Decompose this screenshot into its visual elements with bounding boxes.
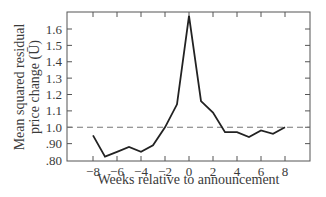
x-axis-ticks: −8−6−4−202468 [86, 12, 288, 179]
y-axis-label-line1: Mean squared residual [12, 24, 27, 151]
y-axis-label-line2: price change (Ū) [27, 24, 42, 151]
plot-frame [67, 12, 310, 161]
y-axis-label: Mean squared residual price change (Ū) [0, 12, 54, 162]
x-axis-label: Weeks relative to announcement [67, 172, 310, 188]
data-series-line [93, 16, 285, 157]
